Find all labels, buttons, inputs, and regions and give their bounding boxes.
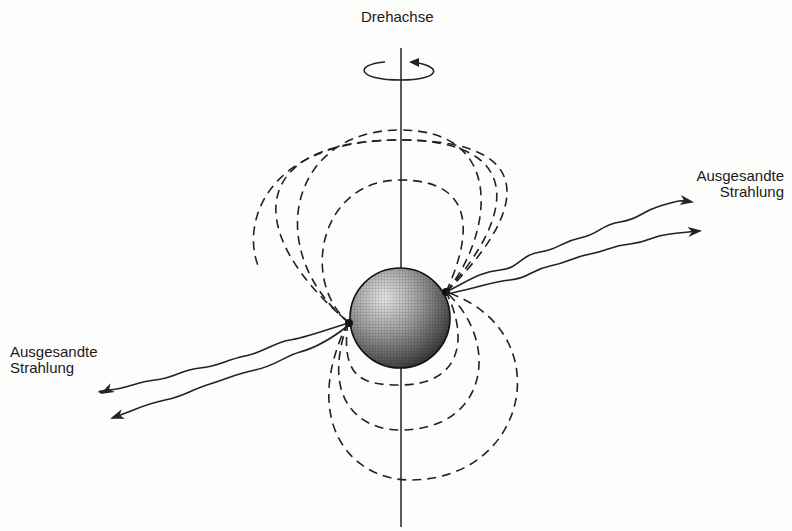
radiation-label-left-line2: Strahlung: [10, 360, 98, 376]
diagram-canvas: [0, 0, 792, 531]
radiation-label-right-line2: Strahlung: [664, 184, 784, 200]
radiation-label-right: Ausgesandte Strahlung: [664, 168, 784, 200]
radiation-beam-left: [99, 323, 349, 418]
rotation-axis-label: Drehachse: [361, 9, 434, 25]
neutron-star: [350, 268, 450, 368]
radiation-beam-right: [446, 201, 700, 294]
radiation-label-left-line1: Ausgesandte: [10, 344, 98, 360]
radiation-label-left: Ausgesandte Strahlung: [10, 344, 98, 376]
radiation-label-right-line1: Ausgesandte: [664, 168, 784, 184]
rotation-arrow-icon: [364, 58, 433, 80]
pulsar-diagram: Drehachse Ausgesandte Strahlung Ausgesan…: [0, 0, 792, 531]
